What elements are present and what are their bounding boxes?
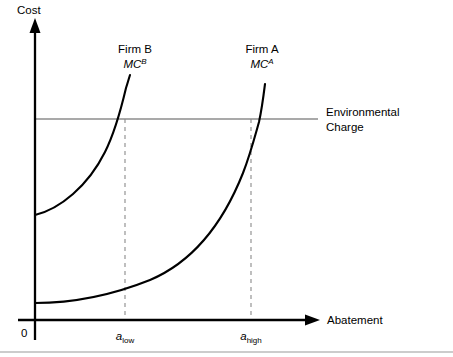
a-high-subscript: high [247, 336, 262, 345]
y-axis-label: Cost [17, 4, 41, 16]
mc-a-superscript: A [267, 57, 273, 66]
figure-background [0, 0, 453, 357]
charge-label-line2: Charge [326, 121, 364, 133]
abatement-cost-figure: Cost Abatement 0 Firm B MCB Firm A MCA E… [0, 0, 453, 357]
mc-b-superscript: B [141, 57, 147, 66]
origin-label: 0 [21, 327, 27, 339]
a-low-subscript: low [122, 336, 134, 345]
mc-b-symbol: MC [123, 58, 142, 70]
curve-label-firm-b: Firm B [118, 43, 152, 55]
x-axis-label: Abatement [327, 314, 383, 326]
mc-a-symbol: MC [250, 58, 269, 70]
charge-label-line1: Environmental [326, 106, 400, 118]
curve-label-firm-a: Firm A [245, 43, 279, 55]
